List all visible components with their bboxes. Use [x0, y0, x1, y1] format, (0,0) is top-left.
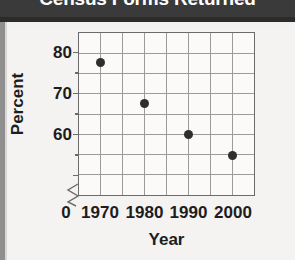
x-axis-title: Year — [78, 230, 255, 250]
chart-screenshot: Census Forms Returned — [0, 0, 295, 260]
grid-lines — [79, 33, 254, 195]
y-tick-label: 70 — [42, 85, 72, 102]
page-title: Census Forms Returned — [0, 0, 295, 10]
y-tick-label: 60 — [42, 126, 72, 143]
y-axis-title: Percent — [8, 64, 28, 144]
chart-title-bar: Census Forms Returned — [0, 0, 295, 22]
y-tick-label: 80 — [42, 44, 72, 61]
plot-area — [78, 32, 255, 196]
x-tick-label: 2000 — [203, 203, 263, 223]
y-axis-tick-labels: 80 70 60 — [38, 32, 72, 196]
x-axis-tick-labels: 0 1970 1980 1990 2000 — [0, 203, 295, 227]
